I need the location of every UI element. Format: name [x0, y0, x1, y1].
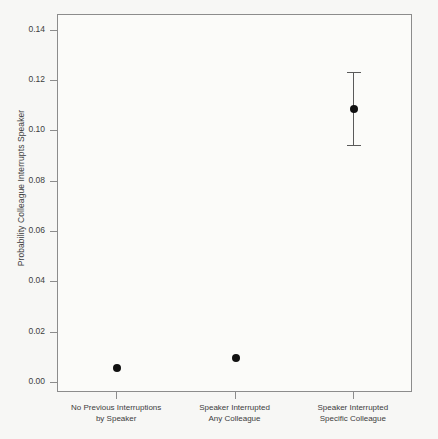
y-tick-mark [50, 130, 57, 131]
x-tick-label-line: Specific Colleague [278, 414, 428, 425]
error-bar-cap-lower [347, 145, 361, 146]
y-tick-mark [50, 332, 57, 333]
y-tick-label: 0.08 [0, 175, 45, 185]
y-tick-label: 0.14 [0, 24, 45, 34]
y-tick-label: 0.10 [0, 124, 45, 134]
data-point-1 [113, 364, 121, 372]
y-tick-label: 0.00 [0, 376, 45, 386]
x-tick-mark [353, 392, 354, 399]
x-tick-label-line: Speaker Interrupted [278, 403, 428, 414]
x-tick-mark [235, 392, 236, 399]
chart-figure: Probability Colleague Interrupts Speaker… [0, 0, 438, 439]
error-bar-cap-upper [347, 72, 361, 73]
y-tick-label: 0.02 [0, 326, 45, 336]
x-tick-label: Speaker InterruptedSpecific Colleague [278, 403, 428, 424]
y-tick-mark [50, 80, 57, 81]
data-point-3 [350, 105, 358, 113]
y-tick-label: 0.06 [0, 225, 45, 235]
y-tick-label: 0.12 [0, 74, 45, 84]
y-tick-mark [50, 181, 57, 182]
y-tick-mark [50, 382, 57, 383]
x-tick-mark [116, 392, 117, 399]
y-tick-label: 0.04 [0, 275, 45, 285]
y-tick-mark [50, 30, 57, 31]
data-point-2 [232, 354, 240, 362]
y-tick-mark [50, 231, 57, 232]
y-axis-title: Probability Colleague Interrupts Speaker [16, 8, 26, 368]
plot-area [57, 14, 412, 392]
y-tick-mark [50, 281, 57, 282]
